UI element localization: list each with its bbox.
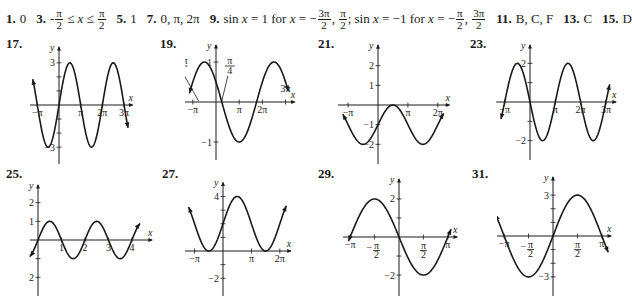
fraction: 3π2 (318, 8, 331, 31)
graph-21: xy−ππ2π21−1−2 (338, 44, 453, 164)
axes: xy123421−2 (28, 180, 153, 296)
answer-number: 7. (147, 11, 157, 27)
axes: xy−π−π2π2π3−3 (497, 176, 612, 296)
y-axis-label: y (28, 180, 34, 191)
answer-text: = −1 for (379, 11, 428, 27)
y-tick-label: 1 (369, 80, 374, 91)
x-axis-label: x (290, 89, 296, 100)
x-tick-label: −π2 (521, 239, 535, 259)
answer-text: - (50, 11, 54, 27)
svg-text:2: 2 (575, 248, 580, 259)
x-axis-label: x (606, 223, 612, 234)
y-axis-label: y (368, 44, 374, 51)
y-tick-label: 2 (29, 197, 34, 208)
exercise-label-21: 21. (318, 36, 334, 52)
graph-27: xy−ππ2π4−2 (185, 176, 300, 296)
answer-11: 11.B, C, F (496, 11, 553, 27)
answer-text: ≤ (83, 11, 97, 27)
x-tick-label: 2π (275, 253, 285, 264)
graph-29: xy−π−π2π2π2−2 (343, 176, 463, 296)
y-tick-label: 3 (544, 190, 549, 201)
y-tick-label: −3 (538, 271, 549, 282)
y-axis-label: y (389, 176, 395, 185)
svg-text:2: 2 (421, 249, 426, 260)
y-tick-label: 3 (50, 57, 55, 68)
x-tick-label: −π (345, 239, 356, 250)
answers-line: 1.03.-π2 ≤ x ≤ π25.17.0, π, 2π9.sin x = … (6, 4, 624, 34)
x-tick-label: −π2 (367, 240, 381, 260)
exercise-label-31: 31. (472, 166, 488, 182)
x-tick-label: π (237, 104, 242, 115)
graph-19: xy−ππ2π3π1−1−3π4π4 (185, 44, 310, 164)
graph-23: xy−ππ2π3π2−2 (492, 44, 617, 164)
answer-number: 5. (117, 11, 127, 27)
x-tick-label: π (405, 107, 410, 118)
exercise-label-29: 29. (318, 166, 334, 182)
answer-15: 15.D (602, 11, 632, 27)
axes: xy−ππ2π21−1−2 (338, 44, 450, 164)
function-curve (343, 105, 444, 144)
exercise-label-27: 27. (162, 166, 178, 182)
zero-annotation: π4 (222, 55, 235, 101)
answer-9: 9.sin x = 1 for x = −3π2, π2; sin x = −1… (210, 8, 487, 31)
svg-text:−: − (367, 242, 373, 253)
zero-annotation: −3π4 (185, 55, 199, 101)
answer-text: 1 (130, 11, 137, 27)
x-axis-label: x (286, 238, 292, 249)
x-axis-label: x (444, 92, 450, 103)
answer-text: , (465, 11, 472, 27)
answer-1: 1.0 (6, 11, 26, 27)
x-axis-label: x (452, 224, 458, 235)
answer-text: B, C, F (516, 11, 554, 27)
answer-text: ; sin (348, 11, 373, 27)
answer-text: , (332, 11, 339, 27)
curve-arrow-icon (189, 85, 289, 93)
axes: xy−π−π2π2π2−2 (343, 176, 458, 296)
y-axis-label: y (213, 177, 219, 188)
answer-number: 9. (210, 11, 220, 27)
y-tick-label: −2 (208, 273, 219, 284)
curve-arrow-icon (343, 113, 444, 120)
y-tick-label: 1 (29, 216, 34, 227)
graph-17: xy−ππ2π3π3−3 (30, 44, 155, 164)
exercise-label-17: 17. (6, 36, 22, 52)
graph-31: xy−π−π2π2π3−3 (497, 176, 617, 296)
answer-text: sin (223, 11, 241, 27)
svg-text:4: 4 (227, 65, 232, 76)
answer-3: 3.-π2 ≤ x ≤ π2 (36, 8, 106, 31)
answer-text: C (584, 11, 593, 27)
fraction: π2 (456, 8, 464, 31)
answer-number: 13. (563, 11, 579, 27)
svg-text:−: − (521, 241, 527, 252)
answer-text: 0, π, 2π (161, 11, 200, 27)
y-axis-label: y (206, 44, 212, 51)
exercise-label-25: 25. (6, 166, 22, 182)
answer-13: 13.C (563, 11, 592, 27)
answer-text: D (622, 11, 631, 27)
svg-text:3π: 3π (185, 55, 188, 66)
y-tick-label: −2 (384, 270, 395, 281)
exercise-label-23: 23. (470, 36, 486, 52)
y-tick-label: 4 (214, 191, 219, 202)
y-axis-label: y (543, 176, 549, 183)
fraction: 3π2 (472, 8, 485, 31)
x-tick-label: π (249, 253, 254, 264)
function-curve (189, 196, 287, 251)
y-tick-label: 2 (369, 60, 374, 71)
x-tick-label: −π (187, 104, 198, 115)
answer-7: 7.0, π, 2π (147, 11, 200, 27)
fraction: π2 (55, 8, 63, 31)
fraction: π2 (339, 8, 347, 31)
answer-text: ≤ (64, 11, 78, 27)
y-axis-label: y (49, 44, 55, 53)
answer-number: 11. (496, 11, 512, 27)
y-axis-label: y (520, 44, 526, 51)
y-tick-label: 2 (390, 193, 395, 204)
axes: xy−ππ2π3π2−2 (496, 44, 617, 160)
x-axis-label: x (147, 227, 153, 238)
exercise-label-19: 19. (160, 36, 176, 52)
answer-5: 5.1 (117, 11, 137, 27)
x-axis-label: x (611, 89, 617, 100)
answer-text: 0 (20, 11, 27, 27)
answer-text: = 1 for (248, 11, 290, 27)
